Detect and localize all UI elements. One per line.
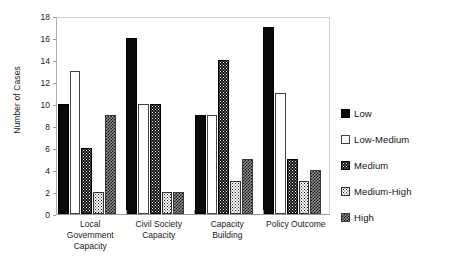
y-tick-label: 6: [45, 145, 50, 153]
legend-swatch-icon: [341, 213, 350, 222]
bar: [207, 115, 218, 214]
x-axis-label-line: Local: [56, 219, 125, 230]
bar: [275, 93, 286, 214]
bar-group: [263, 18, 322, 214]
legend-swatch-icon: [341, 161, 350, 170]
legend-item-label: Medium: [354, 160, 388, 171]
legend-item[interactable]: High: [341, 204, 449, 230]
x-axis-label-line: Capacity: [193, 219, 262, 230]
bar-group: [58, 18, 117, 214]
bar: [299, 181, 310, 214]
bar: [70, 71, 81, 214]
bar: [287, 159, 298, 214]
y-tick-label: 0: [45, 211, 50, 219]
y-tick-mark: [53, 215, 56, 216]
bar-groups: [57, 18, 329, 214]
bar-group: [195, 18, 254, 214]
bar: [126, 38, 137, 214]
y-tick-label: 4: [45, 167, 50, 175]
bar: [81, 148, 92, 214]
y-tick-label: 12: [41, 79, 50, 87]
legend-swatch-icon: [341, 135, 350, 144]
legend-item-label: Medium-High: [354, 186, 412, 197]
x-axis-label: Policy Outcome: [262, 219, 331, 230]
bar: [310, 170, 321, 214]
legend-item[interactable]: Low: [341, 100, 449, 126]
legend-item-label: Low: [354, 108, 372, 119]
bar: [138, 104, 149, 214]
y-tick-label: 14: [41, 57, 50, 65]
x-axis-label-line: Capacity: [125, 230, 194, 241]
y-tick-label: 2: [45, 189, 50, 197]
x-axis-label: LocalGovernmentCapacity: [56, 219, 125, 252]
x-axis-label-line: Capacity: [56, 241, 125, 252]
legend-item[interactable]: Medium: [341, 152, 449, 178]
y-axis-title: Number of Cases: [12, 40, 22, 160]
y-tick-label: 16: [41, 35, 50, 43]
bar: [230, 181, 241, 214]
bar: [93, 192, 104, 214]
bar: [105, 115, 116, 214]
legend-swatch-icon: [341, 109, 350, 118]
plot-area: [56, 17, 330, 215]
x-axis-group-separator: [194, 210, 195, 214]
bar: [150, 104, 161, 214]
bar: [218, 60, 229, 214]
x-axis-label: CapacityBuilding: [193, 219, 262, 241]
x-axis-group-separator: [126, 210, 127, 214]
x-axis-labels: LocalGovernmentCapacityCivil SocietyCapa…: [56, 219, 330, 271]
x-axis-group-separator: [263, 210, 264, 214]
legend-item-label: Low-Medium: [354, 134, 409, 145]
legend-item[interactable]: Medium-High: [341, 178, 449, 204]
y-tick-label: 10: [41, 101, 50, 109]
bar: [263, 27, 274, 214]
bar: [242, 159, 253, 214]
bar: [58, 104, 69, 214]
bar-chart: Number of Cases 024681012141618 LocalGov…: [0, 0, 452, 279]
legend-item-label: High: [354, 212, 374, 223]
chart-legend: LowLow-MediumMediumMedium-HighHigh: [341, 100, 449, 230]
y-tick-label: 8: [45, 123, 50, 131]
bar: [173, 192, 184, 214]
legend-swatch-icon: [341, 187, 350, 196]
x-axis-label-line: Civil Society: [125, 219, 194, 230]
x-axis-label-line: Building: [193, 230, 262, 241]
y-axis-ticks: 024681012141618: [28, 10, 50, 220]
bar: [195, 115, 206, 214]
y-tick-label: 18: [41, 13, 50, 21]
x-axis-label: Civil SocietyCapacity: [125, 219, 194, 241]
bar: [162, 192, 173, 214]
x-axis-label-line: Policy Outcome: [262, 219, 331, 230]
bar-group: [126, 18, 185, 214]
x-axis-label-line: Government: [56, 230, 125, 241]
legend-item[interactable]: Low-Medium: [341, 126, 449, 152]
